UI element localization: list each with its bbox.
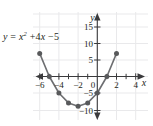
data-point	[114, 51, 119, 56]
x-axis-label: x	[141, 77, 147, 88]
equation-var2: x	[41, 31, 46, 42]
data-point	[66, 100, 71, 105]
equation-annotation: y = x2 +4x −5	[3, 30, 59, 42]
coordinate-plane: −6 −4 −2 0 2 4 15 10 5 −5 −10 x y	[0, 0, 153, 126]
y-tick-label: −5	[83, 88, 93, 98]
x-tick-label: −2	[73, 80, 83, 90]
y-tick-label: 15	[84, 22, 94, 32]
y-axis-label: y	[89, 12, 95, 23]
equation-constant: 5	[54, 31, 59, 42]
parabola-figure: −6 −4 −2 0 2 4 15 10 5 −5 −10 x y y = x2…	[0, 0, 153, 126]
y-tick-label: 5	[89, 55, 94, 65]
x-tick-label: 2	[114, 80, 119, 90]
x-tick-label: −4	[54, 80, 64, 90]
y-tick-label: −10	[79, 106, 94, 116]
x-tick-label: −6	[35, 80, 45, 90]
equation-equals: =	[10, 31, 16, 42]
data-point	[104, 74, 109, 79]
y-tick-label: 10	[84, 39, 94, 49]
data-point	[37, 51, 42, 56]
x-tick-label: 4	[133, 80, 138, 90]
data-point	[56, 91, 61, 96]
equation-lhs: y	[3, 31, 8, 42]
data-point	[85, 100, 90, 105]
data-point	[47, 74, 52, 79]
data-point	[95, 91, 100, 96]
equation-exponent: 2	[24, 30, 27, 37]
